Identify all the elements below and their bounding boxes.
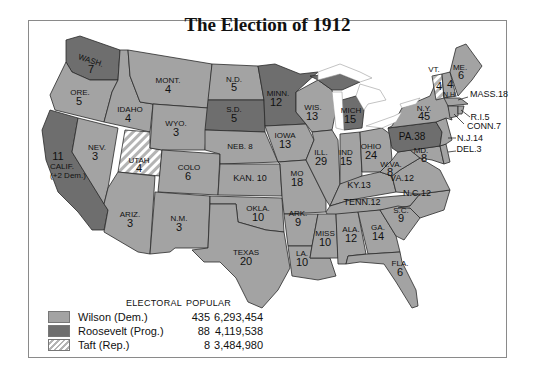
label-mass: MASS.18 — [470, 89, 508, 99]
label-del: DEL.3 — [456, 144, 481, 154]
label-nj: N.J.14 — [457, 133, 483, 143]
votes-ny: 45 — [418, 110, 430, 122]
votes-vt: 4 — [436, 80, 442, 92]
legend-header-popular: POPULAR — [186, 298, 231, 308]
label-calif: CALIF. — [50, 162, 74, 171]
label-pa: PA.38 — [399, 131, 426, 142]
votes-ala: 12 — [345, 232, 357, 244]
label-ky: KY.13 — [347, 180, 370, 190]
legend-candidate: Taft (Rep.) — [78, 339, 129, 351]
label-calif-note: (+2 Dem.) — [50, 171, 86, 180]
votes-ark: 9 — [295, 216, 301, 228]
votes-nm: 3 — [176, 221, 182, 233]
legend-row-roosevelt: Roosevelt (Prog.) 88 4,119,538 — [48, 326, 248, 340]
votes-colo: 6 — [185, 170, 191, 182]
label-va: VA.12 — [390, 173, 414, 183]
votes-md: 8 — [421, 152, 427, 164]
votes-ga: 14 — [372, 230, 384, 242]
label-tenn: TENN.12 — [343, 197, 380, 207]
legend-candidate: Roosevelt (Prog.) — [78, 325, 164, 337]
state-massachusetts — [444, 98, 468, 106]
votes-ill: 29 — [315, 155, 327, 167]
votes-la: 10 — [296, 256, 308, 268]
wilson-swatch — [48, 311, 70, 323]
label-nc: N.C.12 — [403, 188, 431, 198]
votes-nev: 3 — [92, 150, 98, 162]
votes-wash: 7 — [88, 63, 94, 75]
legend-electoral: 8 — [168, 339, 210, 351]
votes-sc: 9 — [398, 212, 404, 224]
votes-ohio: 24 — [365, 149, 377, 161]
legend-popular: 6,293,454 — [213, 311, 263, 323]
votes-utah: 4 — [136, 162, 142, 174]
votes-sd: 5 — [231, 112, 237, 124]
votes-mich: 15 — [344, 113, 356, 125]
votes-texas: 20 — [240, 255, 252, 267]
votes-idaho: 4 — [125, 112, 131, 124]
votes-me: 6 — [458, 69, 464, 81]
legend-row-taft: Taft (Rep.) 8 3,484,980 — [48, 340, 248, 354]
votes-miss: 10 — [319, 236, 331, 248]
votes-ind: 15 — [340, 155, 352, 167]
label-neb: NEB. 8 — [227, 142, 253, 151]
legend-row-wilson: Wilson (Dem.) 435 6,293,454 — [48, 312, 248, 326]
legend-popular: 4,119,538 — [213, 325, 263, 337]
legend-popular: 3,484,980 — [213, 339, 263, 351]
votes-mont: 4 — [165, 83, 171, 95]
label-nh: N.H. — [443, 91, 457, 98]
votes-mo: 18 — [291, 176, 303, 188]
votes-iowa: 13 — [279, 138, 291, 150]
label-conn: CONN.7 — [467, 121, 501, 131]
legend-electoral: 435 — [168, 311, 210, 323]
votes-wyo: 3 — [173, 126, 179, 138]
votes-okla: 10 — [252, 211, 264, 223]
votes-minn: 12 — [270, 96, 282, 108]
votes-nd: 5 — [231, 81, 237, 93]
legend-candidate: Wilson (Dem.) — [78, 311, 148, 323]
taft-swatch — [48, 339, 70, 351]
votes-calif: 11 — [52, 150, 63, 162]
votes-ariz: 3 — [127, 217, 133, 229]
legend-electoral: 88 — [168, 325, 210, 337]
votes-wva: 8 — [387, 166, 393, 178]
votes-fla: 6 — [397, 266, 403, 278]
votes-nh: 4 — [447, 78, 453, 90]
votes-wis: 13 — [306, 110, 318, 122]
label-kan: KAN. 10 — [233, 173, 267, 183]
roosevelt-swatch — [48, 325, 70, 337]
label-vt: VT. — [428, 65, 440, 74]
votes-ore: 5 — [76, 95, 82, 107]
legend-header-electoral: ELECTORAL — [126, 298, 182, 308]
